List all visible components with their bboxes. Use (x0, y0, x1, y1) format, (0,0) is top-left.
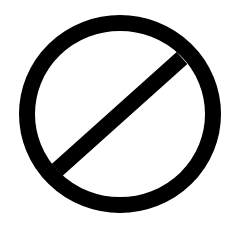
diagonal-slash (57, 58, 182, 170)
prohibited-icon (0, 0, 228, 240)
prohibited-sign: Prohibited (0, 0, 228, 240)
